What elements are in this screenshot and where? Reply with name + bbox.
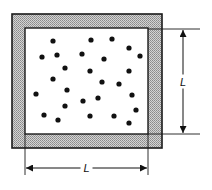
- particle-dot: [99, 79, 104, 84]
- particle-dot: [62, 103, 67, 108]
- dimension-label-vertical: L: [180, 76, 186, 88]
- particle-dot: [54, 52, 59, 57]
- particle-dot: [87, 68, 92, 73]
- particle-dot: [126, 68, 131, 73]
- particle-dot: [126, 45, 131, 50]
- particle-dot: [87, 113, 92, 118]
- particle-dot: [109, 36, 114, 41]
- particle-dot: [133, 107, 138, 112]
- particle-dot: [101, 56, 106, 61]
- container-wall: [12, 14, 162, 148]
- dimension-label-horizontal: L: [83, 162, 89, 174]
- particle-dot: [33, 91, 38, 96]
- particle-dot: [95, 95, 100, 100]
- particle-dot: [116, 81, 121, 86]
- horizontal-dimension: L: [26, 162, 147, 174]
- particle-dot: [55, 117, 60, 122]
- particle-dot: [50, 76, 55, 81]
- particle-dot: [39, 54, 44, 59]
- particle-dot: [80, 98, 85, 103]
- particle-dot: [137, 53, 142, 58]
- particle-box-diagram: L L: [0, 0, 212, 190]
- particle-dot: [88, 37, 93, 42]
- particle-dot: [64, 87, 69, 92]
- particle-dot: [50, 38, 55, 43]
- particle-dot: [111, 113, 116, 118]
- particle-dot: [79, 51, 84, 56]
- inner-cavity: [25, 28, 148, 134]
- particle-dot: [62, 65, 67, 70]
- particle-dot: [41, 112, 46, 117]
- vertical-dimension: L: [180, 30, 186, 133]
- particle-dot: [129, 92, 134, 97]
- particle-dot: [126, 120, 131, 125]
